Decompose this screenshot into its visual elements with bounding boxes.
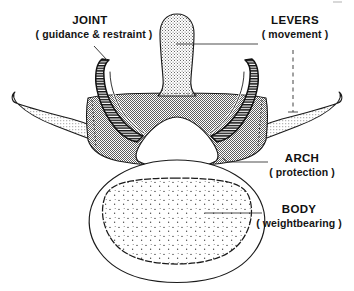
vertebra-illustration	[0, 0, 354, 291]
vertebra-diagram-figure: JOINT ( guidance & restraint ) LEVERS ( …	[0, 0, 354, 291]
label-joint: JOINT ( guidance & restraint )	[18, 14, 170, 40]
label-body-title: BODY	[246, 203, 352, 217]
label-arch-title: ARCH	[254, 152, 350, 166]
label-arch: ARCH ( protection )	[254, 152, 350, 178]
label-body-subtitle: ( weightbearing )	[246, 217, 352, 229]
label-levers-title: LEVERS	[243, 14, 347, 28]
label-body: BODY ( weightbearing )	[246, 203, 352, 229]
cancellous-bone-region	[103, 178, 252, 264]
label-joint-title: JOINT	[10, 14, 170, 28]
label-levers-subtitle: ( movement )	[243, 28, 347, 40]
vertebral-body	[89, 160, 265, 283]
vertebral-arch	[87, 93, 268, 168]
leader-joint	[94, 46, 107, 60]
label-levers: LEVERS ( movement )	[243, 14, 347, 40]
scan-artifact	[333, 1, 342, 3]
label-joint-subtitle: ( guidance & restraint )	[18, 28, 170, 40]
label-arch-subtitle: ( protection )	[254, 166, 350, 178]
